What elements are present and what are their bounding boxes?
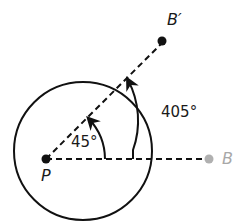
point-p <box>42 155 51 164</box>
label-b-prime: B′ <box>167 12 182 28</box>
label-angle-405: 405° <box>161 105 197 120</box>
point-b-prime <box>158 37 167 46</box>
label-angle-45: 45° <box>71 135 98 150</box>
rotation-diagram <box>0 0 239 224</box>
ray-pb-prime <box>46 43 162 159</box>
label-b: B <box>222 151 233 167</box>
reference-circle <box>14 82 152 220</box>
label-p: P <box>41 168 51 184</box>
point-b <box>205 155 214 164</box>
arc-405 <box>128 80 138 159</box>
